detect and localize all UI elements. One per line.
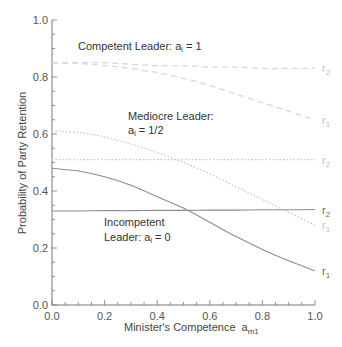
series-competent-leader-r2: [52, 63, 315, 69]
y-axis-title: Probability of Party Retention: [16, 92, 28, 234]
series-lines: [52, 63, 315, 271]
annotation-incompetent-leader: Incompetent: [104, 216, 165, 228]
end-labels: r2r1r2r1r2r1: [322, 62, 331, 279]
annotation-mediocre-leader: Mediocre Leader:: [128, 110, 214, 122]
x-tick-label: 0.0: [44, 310, 59, 322]
y-tick-label: 0.4: [33, 185, 48, 197]
end-label-r1: r1: [322, 265, 331, 280]
end-label-r1: r1: [322, 219, 331, 234]
x-tick-label: 1.0: [307, 310, 322, 322]
series-incompetent-leader-r1: [52, 168, 315, 271]
axes: 0.00.20.40.60.81.00.00.20.40.60.81.0: [33, 14, 323, 322]
y-tick-label: 0.2: [33, 242, 48, 254]
x-tick-label: 0.2: [97, 310, 112, 322]
end-label-r2: r2: [322, 204, 331, 219]
end-label-r1: r1: [322, 114, 331, 129]
end-label-r2: r2: [322, 62, 331, 77]
annotation-mediocre-value: al = 1/2: [128, 124, 164, 137]
y-tick-label: 1.0: [33, 14, 48, 26]
x-tick-label: 0.8: [255, 310, 270, 322]
line-chart: 0.00.20.40.60.81.00.00.20.40.60.81.0 r2r…: [0, 0, 342, 347]
series-incompetent-leader-r2: [52, 210, 315, 211]
y-tick-label: 0.6: [33, 128, 48, 140]
annotation-incompetent-value: Leader: al = 0: [104, 231, 171, 244]
end-label-r2: r2: [322, 154, 331, 169]
x-axis-title: Minister's Competenceam1: [124, 321, 259, 336]
annotation-competent-leader: Competent Leader: al = 1: [78, 40, 202, 53]
y-tick-label: 0.8: [33, 71, 48, 83]
